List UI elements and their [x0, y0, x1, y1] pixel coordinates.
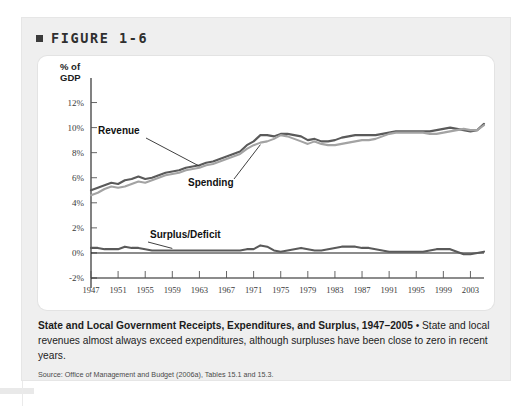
- y-axis-tick-label: 8%: [72, 148, 85, 158]
- y-axis-title-line2: GDP: [60, 72, 81, 83]
- leader-line-surplus-deficit: [148, 242, 172, 248]
- y-axis-tick-label: 4%: [72, 198, 85, 208]
- x-axis-tick-label: 1971: [245, 285, 262, 295]
- figure-header: FIGURE 1-6: [36, 30, 148, 46]
- chart-plot: % ofGDP12%10%8%6%4%2%0%-2%19471951195519…: [38, 56, 494, 310]
- x-axis-tick-label: 1999: [435, 285, 452, 295]
- x-axis-tick-label: 1955: [137, 285, 154, 295]
- chart-card: % ofGDP12%10%8%6%4%2%0%-2%19471951195519…: [38, 56, 494, 310]
- x-axis-tick-label: 1951: [110, 285, 127, 295]
- x-axis-tick-label: 1991: [381, 285, 398, 295]
- y-axis-tick-label: 6%: [72, 173, 85, 183]
- caption-separator: •: [413, 320, 422, 331]
- x-axis-tick-label: 1947: [82, 285, 100, 295]
- x-axis-tick-label: 1963: [191, 285, 208, 295]
- leader-line-revenue: [146, 138, 199, 166]
- series-label-revenue: Revenue: [98, 125, 140, 136]
- x-axis-tick-label: 1995: [408, 285, 425, 295]
- figure-caption: State and Local Government Receipts, Exp…: [38, 318, 490, 363]
- square-bullet-icon: [36, 35, 43, 42]
- series-line-spending: [91, 125, 484, 195]
- series-label-surplus-deficit: Surplus/Deficit: [150, 229, 221, 240]
- y-axis-tick-label: -2%: [69, 273, 84, 283]
- page-rule: [22, 380, 23, 406]
- x-axis-tick-label: 1959: [164, 285, 181, 295]
- x-axis-tick-label: 1979: [299, 285, 316, 295]
- y-axis-tick-label: 2%: [72, 223, 85, 233]
- x-axis-tick-label: 1987: [353, 285, 371, 295]
- figure-panel: FIGURE 1-6 % ofGDP12%10%8%6%4%2%0%-2%194…: [22, 18, 510, 380]
- y-axis-tick-label: 0%: [72, 248, 85, 258]
- y-axis-tick-label: 12%: [68, 98, 85, 108]
- figure-label: FIGURE 1-6: [51, 30, 148, 46]
- x-axis-tick-label: 1975: [272, 285, 289, 295]
- x-axis-tick-label: 1967: [218, 285, 236, 295]
- source-note: Source: Office of Management and Budget …: [38, 370, 490, 379]
- page-margin: [0, 0, 22, 406]
- y-axis-title-line1: % of: [60, 61, 81, 72]
- page-fold-mark: [0, 388, 34, 394]
- caption-title: State and Local Government Receipts, Exp…: [38, 320, 413, 331]
- x-axis-tick-label: 1983: [326, 285, 343, 295]
- x-axis-tick-label: 2003: [462, 285, 479, 295]
- series-label-spending: Spending: [188, 177, 234, 188]
- y-axis-tick-label: 10%: [68, 123, 85, 133]
